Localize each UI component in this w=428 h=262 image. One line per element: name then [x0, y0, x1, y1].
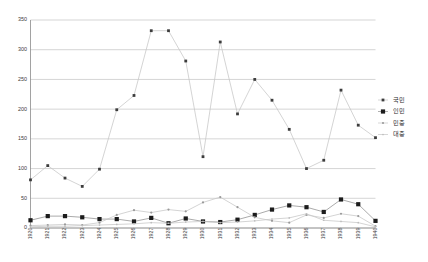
data-point	[288, 217, 290, 219]
data-point	[115, 217, 119, 221]
data-point	[202, 155, 205, 158]
x-axis-label-1926: 1926	[130, 228, 136, 240]
data-point	[47, 225, 49, 227]
data-point	[219, 41, 222, 44]
data-point	[64, 223, 66, 225]
data-point	[80, 215, 84, 219]
series-0	[29, 29, 377, 188]
x-axis-label-1930: 1930	[199, 228, 205, 240]
data-point	[150, 29, 153, 32]
x-axis-label-1927: 1927	[148, 228, 154, 240]
data-point	[288, 128, 291, 131]
data-point	[323, 219, 325, 221]
data-point	[29, 178, 32, 181]
gridlines	[31, 20, 376, 228]
x-axis-label-1936: 1936	[303, 228, 309, 240]
y-axis-label-250: 250	[18, 76, 27, 82]
legend-marker	[382, 122, 384, 124]
data-point	[64, 225, 66, 227]
data-point	[340, 89, 343, 92]
data-point	[235, 218, 239, 222]
legend-marker	[382, 99, 385, 102]
x-axis-label-1931: 1931	[217, 228, 223, 240]
data-point	[219, 222, 221, 224]
data-point	[357, 215, 359, 217]
x-axis-label-1933: 1933	[251, 228, 257, 240]
data-point	[339, 197, 343, 201]
x-axis-label-1929: 1929	[182, 228, 188, 240]
data-point	[99, 224, 101, 226]
legend-label-0: 국민	[393, 96, 405, 104]
data-point	[98, 222, 100, 224]
data-point	[133, 223, 135, 225]
x-axis-label-1924: 1924	[96, 228, 102, 240]
data-point	[28, 218, 32, 222]
data-point	[254, 216, 256, 218]
data-point	[81, 225, 83, 227]
data-point	[149, 216, 153, 220]
data-point	[287, 203, 291, 207]
data-point	[150, 211, 152, 213]
data-point	[356, 202, 360, 206]
data-point	[150, 222, 152, 224]
x-axis-label-1921: 1921	[44, 228, 50, 240]
legend-item-0[interactable]: 국민	[378, 96, 405, 104]
line-chart: 050100150200250300350 192019211922192319…	[0, 0, 428, 262]
legend-item-1[interactable]: 인민	[378, 107, 405, 114]
y-axis-label-200: 200	[18, 106, 27, 112]
data-point	[236, 206, 238, 208]
x-axis-label-1940: 1940	[372, 228, 378, 240]
data-point	[322, 159, 325, 162]
data-series	[28, 29, 377, 227]
data-point	[357, 222, 359, 224]
data-point	[288, 222, 290, 224]
data-point	[219, 196, 221, 198]
data-point	[271, 220, 273, 222]
y-axis-label-300: 300	[18, 46, 27, 52]
x-axis-label-1934: 1934	[268, 228, 274, 240]
data-point	[202, 221, 204, 223]
data-point	[184, 60, 187, 63]
data-point	[202, 201, 204, 203]
legend-item-3[interactable]: 대중	[378, 130, 405, 138]
data-point	[185, 221, 187, 223]
y-axis-label-350: 350	[18, 16, 27, 22]
data-point	[30, 226, 32, 228]
data-point	[63, 214, 67, 218]
data-point	[46, 214, 50, 218]
data-point	[46, 164, 49, 167]
x-axis-label-1937: 1937	[320, 228, 326, 240]
chart-container: 050100150200250300350 192019211922192319…	[0, 0, 428, 262]
x-axis-label-1928: 1928	[165, 228, 171, 240]
data-point	[168, 222, 170, 224]
data-point	[115, 108, 118, 111]
x-axis-label-1932: 1932	[234, 228, 240, 240]
data-point	[97, 217, 101, 221]
data-point	[270, 207, 274, 211]
data-point	[340, 213, 342, 215]
legend-label-1: 인민	[393, 107, 405, 114]
x-axis-label-1935: 1935	[286, 228, 292, 240]
x-axis-tick-labels: 1920192119221923192419251926192719281929…	[27, 228, 378, 240]
data-point	[374, 136, 377, 139]
data-point	[64, 177, 67, 180]
x-axis-label-1939: 1939	[355, 228, 361, 240]
x-axis-label-1920: 1920	[27, 228, 33, 240]
data-point	[184, 216, 188, 220]
y-axis-label-150: 150	[18, 135, 27, 141]
data-point	[340, 221, 342, 223]
data-point	[116, 224, 118, 226]
data-point	[271, 218, 273, 220]
legend-label-2: 민중	[393, 119, 405, 126]
data-point	[254, 220, 256, 222]
series-line-0	[31, 31, 376, 187]
data-point	[375, 226, 377, 228]
data-point	[322, 210, 326, 214]
legend-item-2[interactable]: 민중	[378, 119, 405, 126]
data-point	[271, 99, 274, 102]
data-point	[304, 205, 308, 209]
legend-marker	[381, 109, 385, 113]
y-axis-tick-labels: 050100150200250300350	[18, 16, 27, 230]
data-point	[132, 219, 136, 223]
data-point	[116, 214, 118, 216]
